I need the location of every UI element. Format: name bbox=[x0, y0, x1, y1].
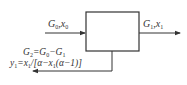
output-label: G1,x1 bbox=[143, 19, 163, 30]
input-label: G0,x0 bbox=[48, 19, 68, 30]
diagram-canvas bbox=[0, 0, 187, 85]
process-block bbox=[86, 12, 139, 51]
side-stream-equation-1: G2=G0−G1 bbox=[23, 48, 65, 58]
side-stream-equation-2: y1=x1/[α−x1(α−1)] bbox=[10, 59, 82, 69]
